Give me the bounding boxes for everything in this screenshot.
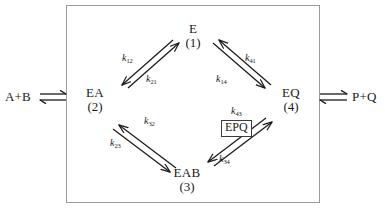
arrow-eab-to-ea <box>119 125 176 168</box>
rate-label-k43: k43 <box>231 105 242 116</box>
node-e-species: E <box>176 22 210 36</box>
node-ea: EA (2) <box>78 86 112 113</box>
rate-label-k21-sub: 21 <box>150 78 156 85</box>
node-eq-species: EQ <box>274 86 308 100</box>
rate-label-k32: k32 <box>144 115 155 126</box>
rate-label-k23: k23 <box>110 137 121 148</box>
node-epq-species: EPQ <box>225 120 248 134</box>
rate-label-k23-sub: 23 <box>114 142 120 149</box>
rate-label-k34: k34 <box>219 153 230 164</box>
node-eq: EQ (4) <box>274 86 308 113</box>
node-eab: EAB (3) <box>166 166 208 193</box>
node-epq: EPQ <box>221 120 252 137</box>
rate-label-k41-sub: 41 <box>249 57 255 64</box>
rate-label-k12-sub: 12 <box>126 57 132 64</box>
node-ea-index: (2) <box>78 100 112 114</box>
node-eq-index: (4) <box>274 100 308 114</box>
node-ea-species: EA <box>78 86 112 100</box>
rate-label-k41: k41 <box>245 52 256 63</box>
rate-label-k21: k21 <box>146 73 157 84</box>
node-e: E (1) <box>176 22 210 49</box>
node-eab-species: EAB <box>166 166 208 180</box>
substrate-label-text: A+B <box>5 89 31 104</box>
rate-label-k14: k14 <box>216 73 227 84</box>
rate-label-k32-sub: 32 <box>148 120 154 127</box>
product-label-text: P+Q <box>352 89 377 104</box>
arrow-ea-to-eab <box>113 129 170 172</box>
product-label: P+Q <box>352 89 377 105</box>
rate-label-k14-sub: 14 <box>220 78 226 85</box>
rate-label-k43-sub: 43 <box>235 110 241 117</box>
diagram-canvas: E (1) EA (2) EAB (3) EQ (4) EPQ A+B P+Q … <box>0 0 385 217</box>
product-exit-arrow <box>320 91 347 104</box>
node-eab-index: (3) <box>166 180 208 194</box>
node-e-index: (1) <box>176 36 210 50</box>
substrate-label: A+B <box>5 89 31 105</box>
substrate-entry-arrow <box>40 91 66 104</box>
rate-label-k12: k12 <box>122 52 133 63</box>
rate-label-k34-sub: 34 <box>223 158 229 165</box>
